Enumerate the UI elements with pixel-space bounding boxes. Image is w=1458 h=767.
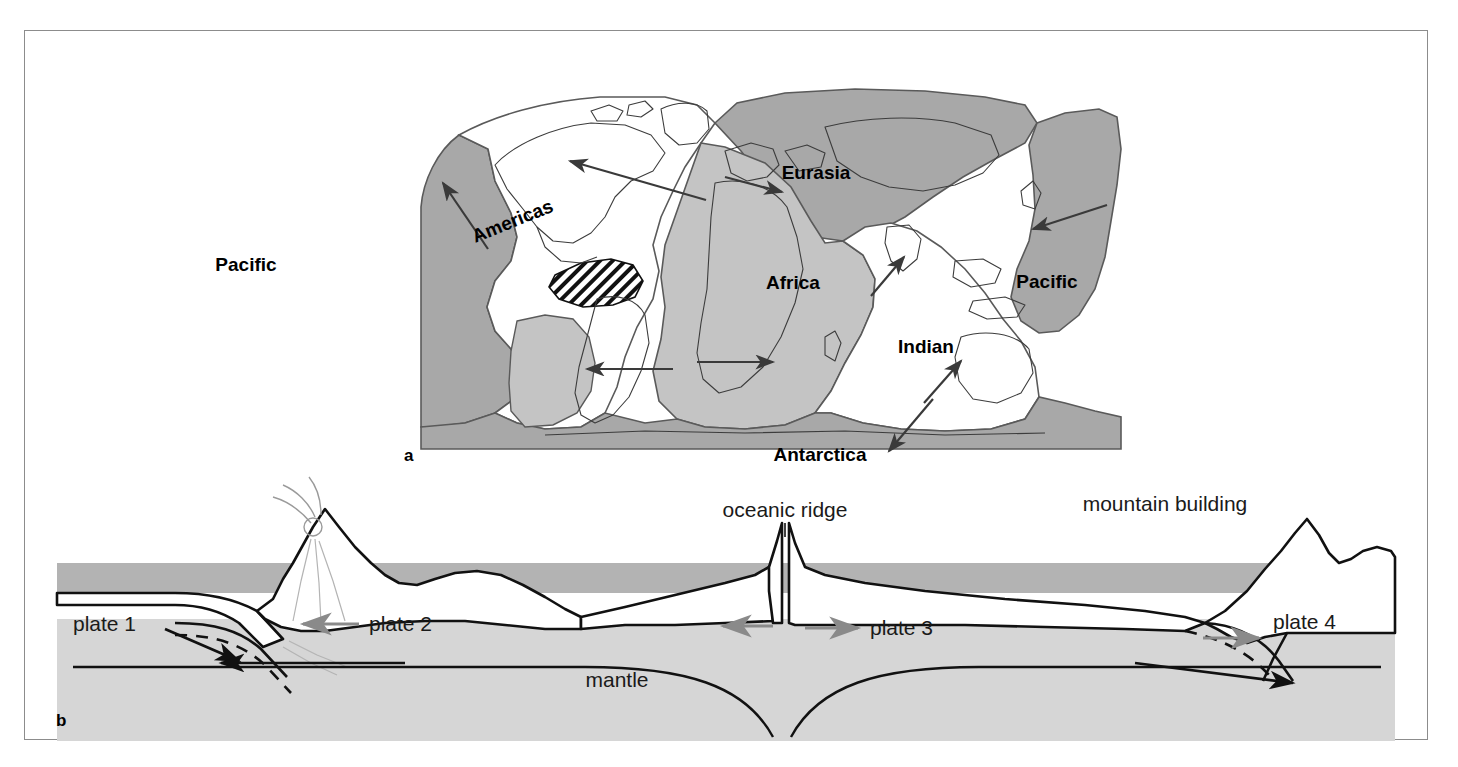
world-map-svg: Pacific Americas Eurasia Africa Pacific …	[25, 31, 1429, 471]
cross-section-svg: plate 1 plate 2 plate 3 plate 4 oceanic …	[25, 471, 1429, 741]
label-oceanic-ridge: oceanic ridge	[723, 498, 848, 521]
plate-label-pacific-left: Pacific	[215, 254, 277, 275]
plate-label-indian: Indian	[898, 336, 954, 357]
panel-b-cross-section: plate 1 plate 2 plate 3 plate 4 oceanic …	[25, 471, 1429, 741]
plate-label-africa: Africa	[766, 272, 820, 293]
plate-label-antarctica: Antarctica	[774, 444, 867, 465]
label-mantle: mantle	[585, 668, 648, 691]
panel-letter-b: b	[56, 711, 66, 731]
plate-pacific-right	[1011, 109, 1121, 333]
plate-label-pacific-right: Pacific	[1016, 271, 1078, 292]
ridge-left-flank	[769, 523, 782, 623]
label-plate-2: plate 2	[369, 612, 432, 635]
label-mountain-building: mountain building	[1083, 492, 1248, 515]
figure-frame: Pacific Americas Eurasia Africa Pacific …	[24, 30, 1428, 740]
label-plate-4: plate 4	[1273, 610, 1336, 633]
panel-letter-a: a	[404, 446, 413, 466]
label-plate-1: plate 1	[73, 612, 136, 635]
panel-a-world-map: Pacific Americas Eurasia Africa Pacific …	[25, 31, 1429, 471]
plate-label-eurasia: Eurasia	[782, 162, 851, 183]
label-plate-3: plate 3	[870, 616, 933, 639]
